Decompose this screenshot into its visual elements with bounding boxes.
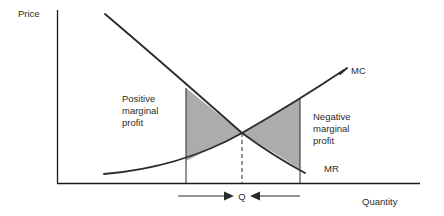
positive-marginal-profit-label-line3: profit <box>122 117 143 128</box>
left-measure-arrow-head <box>224 192 234 201</box>
diagram-canvas: Price Quantity MC MR Positive marginal p… <box>0 0 444 216</box>
negative-marginal-profit-shade <box>242 98 300 169</box>
positive-marginal-profit-label-line1: Positive <box>122 93 155 104</box>
negative-marginal-profit-label-line3: profit <box>313 135 334 146</box>
mc-curve-label: MC <box>351 65 366 76</box>
negative-marginal-profit-label-line1: Negative <box>313 111 351 122</box>
right-measure-arrow-head <box>250 192 260 201</box>
negative-marginal-profit-label-line2: marginal <box>313 123 349 134</box>
mr-curve-label: MR <box>324 163 339 174</box>
x-axis-label: Quantity <box>362 196 398 207</box>
y-axis-label: Price <box>18 8 40 19</box>
equilibrium-quantity-label: Q <box>238 191 245 202</box>
positive-marginal-profit-label-line2: marginal <box>122 105 158 116</box>
economics-diagram-figure: Price Quantity MC MR Positive marginal p… <box>0 0 444 216</box>
